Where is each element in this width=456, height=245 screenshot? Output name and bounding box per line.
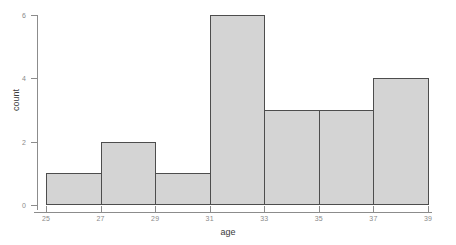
x-tick-mark: [373, 206, 374, 212]
histogram-bar: [101, 142, 157, 205]
y-tick-mark: [31, 15, 37, 16]
histogram-bar: [155, 173, 211, 205]
y-tick-mark: [31, 205, 37, 206]
histogram-bar: [210, 15, 266, 205]
x-tick-mark: [210, 206, 211, 212]
x-tick-label: 39: [424, 215, 432, 222]
x-tick-label: 33: [260, 215, 268, 222]
x-axis-line: [34, 212, 432, 213]
x-tick-mark: [428, 206, 429, 212]
y-tick-label: 2: [8, 138, 26, 145]
x-tick-mark: [46, 206, 47, 212]
y-tick-mark: [31, 142, 37, 143]
x-axis-title: age: [0, 227, 456, 237]
plot-area: [46, 15, 428, 205]
y-axis-title: count: [11, 70, 21, 130]
histogram-bar: [46, 173, 102, 205]
y-axis-line: [37, 15, 38, 210]
histogram-bar: [264, 110, 320, 205]
y-tick-label: 6: [8, 12, 26, 19]
y-tick-mark: [31, 78, 37, 79]
histogram-bar: [319, 110, 375, 205]
x-tick-mark: [319, 206, 320, 212]
x-tick-label: 25: [42, 215, 50, 222]
y-tick-label: 0: [8, 202, 26, 209]
x-tick-mark: [101, 206, 102, 212]
x-tick-label: 37: [369, 215, 377, 222]
histogram-bar: [373, 78, 429, 205]
x-tick-mark: [155, 206, 156, 212]
x-tick-label: 29: [151, 215, 159, 222]
histogram-chart: 2527293133353739 0246 age count: [0, 0, 456, 245]
x-tick-label: 27: [96, 215, 104, 222]
x-tick-label: 31: [206, 215, 214, 222]
x-tick-label: 35: [315, 215, 323, 222]
x-tick-mark: [264, 206, 265, 212]
